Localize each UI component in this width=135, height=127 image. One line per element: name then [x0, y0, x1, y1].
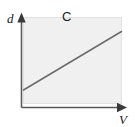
- x-axis-label: V: [119, 113, 127, 126]
- arrow-right-icon: [117, 103, 127, 112]
- chart-figure-c: d V C: [0, 0, 135, 127]
- panel-label-c: C: [62, 10, 71, 23]
- y-axis-label: d: [7, 12, 14, 25]
